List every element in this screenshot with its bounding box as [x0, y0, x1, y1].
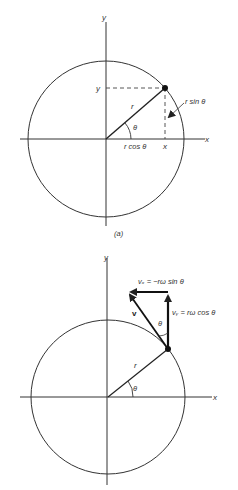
y-axis-label: y	[103, 253, 109, 262]
v-vector	[130, 295, 168, 349]
radius-label: r	[134, 361, 137, 370]
radius-label: r	[131, 102, 134, 111]
angle-label: θ	[133, 384, 137, 393]
vx-label: vₓ = −rω sin θ	[138, 277, 184, 286]
r-cos-label: r cos θ	[124, 142, 146, 151]
panel-b: y x r θ v θ vₓ = −rω sin θ vᵧ = rω cos θ	[20, 253, 218, 485]
angle-arc	[125, 123, 131, 139]
point	[162, 85, 168, 91]
vector-angle-arc	[159, 333, 168, 336]
radius-line	[108, 349, 168, 397]
y-axis-label: y	[101, 13, 107, 22]
v-label: v	[132, 309, 137, 318]
panel-a-caption: (a)	[114, 229, 124, 238]
point-x-label: x	[162, 142, 168, 151]
r-sin-label: r sin θ	[185, 97, 205, 106]
point-y-label: y	[95, 84, 101, 93]
vy-label: vᵧ = rω cos θ	[172, 308, 215, 317]
angle-label: θ	[133, 123, 137, 132]
panel-a: y x y x r θ r cos θ r sin θ (a)	[20, 13, 210, 238]
x-axis-label: x	[204, 135, 210, 144]
circular-motion-figure: y x y x r θ r cos θ r sin θ (a) y x r θ …	[0, 0, 238, 490]
x-axis-label: x	[212, 393, 218, 402]
vector-angle-label: θ	[158, 319, 162, 328]
